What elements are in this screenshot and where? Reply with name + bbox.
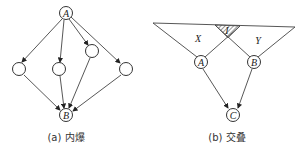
caption-b: (b) 交叠 — [208, 131, 245, 143]
node-n3 — [86, 45, 99, 58]
edge-a-n3 — [69, 19, 88, 45]
node-a-label: A — [62, 8, 70, 19]
node-b-label: B — [63, 110, 69, 121]
region-i-label: I — [224, 25, 229, 36]
node-n1 — [13, 63, 26, 76]
edge-n2-b — [60, 76, 64, 108]
edge-a-n2 — [60, 20, 64, 62]
triangle-y-right — [258, 27, 295, 57]
overlap-diagram: X Y I A B C (b) 交叠 — [153, 23, 295, 143]
triangle-x-left — [153, 23, 197, 57]
region-x-label: X — [194, 33, 202, 44]
edge-a-n1 — [22, 19, 62, 62]
diagram-canvas: A B (a) 内爆 X Y I A B C (b) 交叠 — [0, 0, 304, 152]
edge-a-c — [203, 69, 228, 108]
node-n2 — [53, 63, 66, 76]
node-c-label: C — [230, 110, 237, 121]
node-b-label: B — [251, 57, 257, 68]
node-n4 — [120, 63, 133, 76]
node-a-label: A — [197, 57, 205, 68]
edge-n1-b — [24, 75, 60, 110]
implosion-diagram: A B (a) 内爆 — [13, 7, 133, 144]
edge-b-c — [238, 69, 252, 108]
caption-a: (a) 内爆 — [47, 131, 84, 143]
region-y-label: Y — [255, 35, 262, 46]
